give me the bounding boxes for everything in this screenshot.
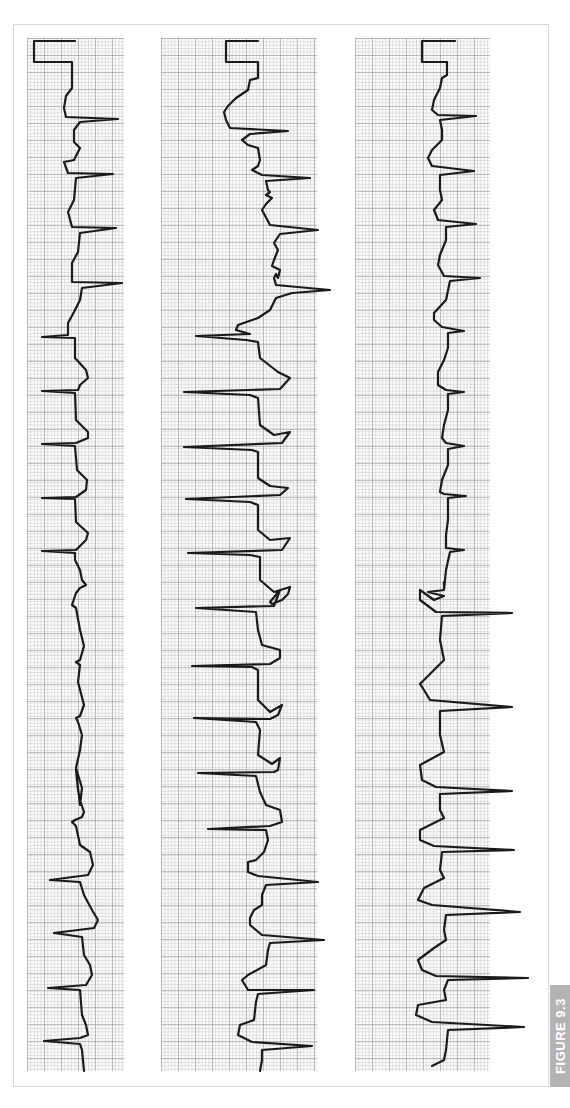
figure-label: FIGURE 9.3 (550, 985, 570, 1087)
ecg-trace-2 (184, 41, 330, 1071)
ecg-traces (0, 0, 570, 1108)
ecg-trace-3 (416, 41, 528, 1066)
ecg-trace-1 (34, 41, 122, 1071)
figure-label-text: FIGURE 9.3 (553, 998, 568, 1074)
